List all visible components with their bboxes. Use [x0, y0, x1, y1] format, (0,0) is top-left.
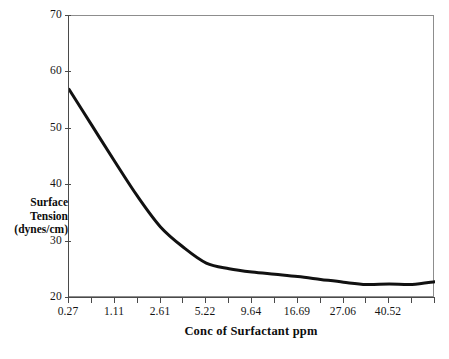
x-tick-11	[320, 297, 321, 303]
x-tick-label-5.22: 5.22	[182, 305, 228, 318]
x-tick-1	[91, 297, 92, 303]
x-tick-16	[434, 297, 435, 303]
y-tick-label-20: 20	[34, 291, 62, 303]
y-tick-40	[65, 184, 71, 185]
x-tick-3	[137, 297, 138, 303]
x-tick-2	[114, 297, 115, 303]
plot-area	[68, 15, 434, 297]
x-tick-0	[68, 297, 69, 303]
x-tick-label-16.69: 16.69	[274, 305, 320, 318]
chart-figure: 203040506070 0.271.112.615.229.6416.6927…	[0, 0, 449, 359]
series-line-surface-tension	[69, 89, 435, 284]
x-tick-12	[343, 297, 344, 303]
x-tick-9	[274, 297, 275, 303]
x-tick-label-9.64: 9.64	[228, 305, 274, 318]
x-tick-label-27.06: 27.06	[320, 305, 366, 318]
y-tick-label-70: 70	[34, 9, 62, 21]
x-tick-label-2.61: 2.61	[137, 305, 183, 318]
y-tick-50	[65, 128, 71, 129]
y-tick-70	[65, 15, 71, 16]
y-axis-title-line-1: Surface	[2, 196, 68, 210]
x-tick-13	[365, 297, 366, 303]
x-tick-label-1.11: 1.11	[91, 305, 137, 318]
y-tick-label-60: 60	[34, 65, 62, 77]
y-axis-line	[68, 15, 69, 297]
surface-tension-curve	[69, 16, 435, 298]
x-tick-10	[297, 297, 298, 303]
x-tick-4	[160, 297, 161, 303]
x-axis-title: Conc of Surfactant ppm	[68, 324, 434, 339]
y-axis-title-line-2: Tension	[2, 210, 68, 224]
y-axis-title-line-3: (dynes/cm)	[2, 223, 68, 237]
y-axis-title: Surface Tension (dynes/cm)	[2, 196, 68, 237]
y-tick-30	[65, 241, 71, 242]
y-tick-label-50: 50	[34, 122, 62, 134]
x-tick-14	[388, 297, 389, 303]
x-tick-5	[182, 297, 183, 303]
y-tick-label-40: 40	[34, 178, 62, 190]
y-tick-60	[65, 71, 71, 72]
x-tick-label-0.27: 0.27	[45, 305, 91, 318]
x-tick-7	[228, 297, 229, 303]
x-tick-8	[251, 297, 252, 303]
x-tick-15	[411, 297, 412, 303]
x-tick-label-40.52: 40.52	[365, 305, 411, 318]
x-tick-6	[205, 297, 206, 303]
